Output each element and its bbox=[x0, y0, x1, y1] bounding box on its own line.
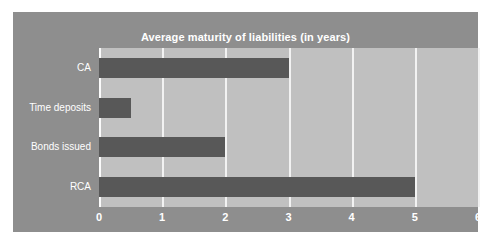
x-tick-label: 6 bbox=[463, 211, 493, 223]
bar bbox=[99, 98, 131, 118]
x-tick-label: 4 bbox=[337, 211, 367, 223]
category-label: Time deposits bbox=[29, 98, 91, 118]
chart-title: Average maturity of liabilities (in year… bbox=[13, 31, 478, 43]
bar bbox=[99, 58, 289, 78]
plot-area: CATime depositsBonds issuedRCA bbox=[99, 48, 478, 207]
bar-row: Time deposits bbox=[99, 88, 478, 128]
bar-series: CATime depositsBonds issuedRCA bbox=[99, 48, 478, 207]
gridline-6 bbox=[478, 48, 480, 207]
x-tick-label: 5 bbox=[400, 211, 430, 223]
x-tick-label: 3 bbox=[274, 211, 304, 223]
x-tick-label: 2 bbox=[210, 211, 240, 223]
bar-row: RCA bbox=[99, 167, 478, 207]
category-label: CA bbox=[77, 58, 91, 78]
x-tick-label: 0 bbox=[84, 211, 114, 223]
bar-row: Bonds issued bbox=[99, 128, 478, 168]
category-label: Bonds issued bbox=[31, 137, 91, 157]
bar bbox=[99, 137, 225, 157]
bar-row: CA bbox=[99, 48, 478, 88]
category-label: RCA bbox=[70, 177, 91, 197]
bar bbox=[99, 177, 415, 197]
x-tick-label: 1 bbox=[147, 211, 177, 223]
chart-card: Average maturity of liabilities (in year… bbox=[13, 12, 478, 232]
